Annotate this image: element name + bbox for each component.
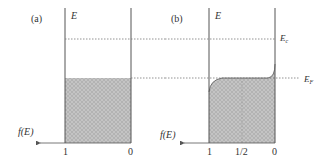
tick-0: 0 <box>272 146 277 157</box>
tick-half: 1/2 <box>235 146 248 157</box>
panel-label: (b) <box>171 13 183 25</box>
filled-states-region <box>65 78 131 143</box>
tick-1: 1 <box>63 146 68 157</box>
f-axis-label: f(E) <box>160 129 176 141</box>
tick-1: 1 <box>207 146 212 157</box>
panel-b: (b) E Ec EF f(E) 1 1/2 0 <box>160 8 314 157</box>
f-axis-label: f(E) <box>18 126 34 138</box>
fermi-level-label: EF <box>303 74 314 85</box>
panel-a: (a) E f(E) 1 0 <box>18 8 165 157</box>
conduction-level-label: Ec <box>279 33 289 44</box>
panel-label: (a) <box>31 13 42 25</box>
energy-axis-label: E <box>70 10 77 21</box>
fermi-dirac-diagram: (a) E f(E) 1 0 (b) E Ec EF f(E) 1 1/2 0 <box>0 0 331 165</box>
tick-0: 0 <box>128 146 133 157</box>
energy-axis-label: E <box>214 10 221 21</box>
